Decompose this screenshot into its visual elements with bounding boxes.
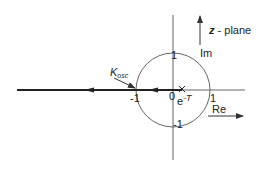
locus-arrow-icon: [148, 88, 158, 93]
imag-tick-pos: 1: [171, 49, 177, 61]
z-plane-root-locus-diagram: z - plane Im Re 1 -1 -1 1 0 e-T Kosc: [0, 0, 262, 170]
imag-axis-label: Im: [200, 47, 212, 59]
pole-marker-icon: [179, 86, 185, 92]
origin-label: 0: [169, 90, 175, 102]
k-osc-label: Kosc: [110, 66, 129, 79]
locus-arrow-icon: [84, 88, 94, 93]
k-osc-pointer-arrow: [114, 78, 135, 88]
real-axis-label: Re: [212, 103, 226, 115]
pole-location-label: e-T: [177, 93, 193, 107]
real-tick-neg: -1: [130, 92, 140, 104]
real-tick-pos: 1: [210, 92, 216, 104]
imag-tick-neg: -1: [173, 118, 183, 130]
plane-title: z - plane: [208, 24, 251, 36]
